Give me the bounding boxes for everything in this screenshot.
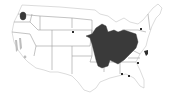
occurrence-dot bbox=[72, 31, 74, 33]
occurrence-dot bbox=[121, 73, 123, 75]
us-outline bbox=[12, 4, 162, 92]
occurrence-dot bbox=[144, 50, 148, 56]
occurrence-dot bbox=[140, 28, 142, 30]
us-map bbox=[0, 0, 177, 107]
occurrence-dot bbox=[128, 75, 130, 77]
range-washington bbox=[20, 12, 26, 20]
occurrence-dot bbox=[137, 62, 139, 64]
